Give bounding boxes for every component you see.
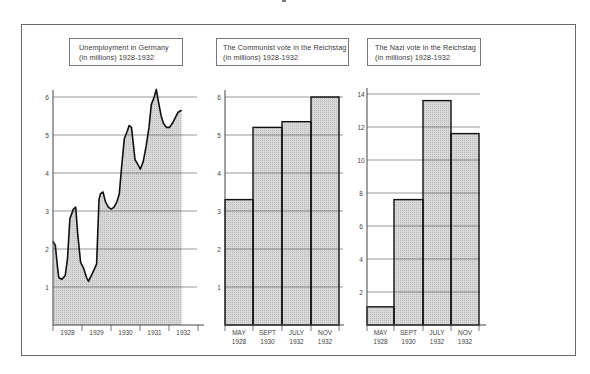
y-tick-label: 2 [45, 246, 49, 253]
x-tick-label: 1931 [147, 329, 162, 336]
y-tick-label: 3 [217, 208, 221, 215]
bar-fill [423, 101, 451, 325]
y-tick-label: 12 [357, 124, 365, 131]
bar-fill [253, 127, 282, 325]
y-tick-label: 5 [217, 132, 221, 139]
y-tick-label: 1 [45, 284, 49, 291]
y-tick-label: 2 [217, 246, 221, 253]
x-tick-label: 1928 [60, 329, 75, 336]
bar-fill [394, 200, 423, 325]
x-tick-label: 1929 [89, 329, 104, 336]
x-tick-label: MAY [374, 329, 388, 336]
y-tick-label: 4 [45, 170, 49, 177]
unemployment-chart: 12345619281929193019311932 [45, 89, 204, 336]
x-tick-label: 1932 [176, 329, 191, 336]
x-tick-label: 1932 [430, 338, 445, 345]
y-tick-label: 1 [217, 284, 221, 291]
y-tick-label: 5 [45, 132, 49, 139]
figure: Unemployment in Germany (in millions) 19… [0, 0, 590, 374]
y-tick-label: 6 [217, 94, 221, 101]
nazi-vote-chart: 2468101214MAY1928SEPT1930JULY1932NOV1932 [357, 88, 486, 345]
y-tick-label: 6 [359, 223, 363, 230]
x-tick-label: JULY [289, 329, 305, 336]
x-tick-label: SEPT [259, 329, 276, 336]
x-tick-label: MAY [232, 329, 246, 336]
x-tick-label: 1930 [401, 338, 416, 345]
x-tick-label: SEPT [400, 329, 417, 336]
y-tick-label: 2 [359, 289, 363, 296]
unemployment-area-fill [53, 89, 182, 325]
y-tick-label: 8 [359, 190, 363, 197]
y-tick-label: 10 [357, 157, 365, 164]
bar-fill [282, 122, 311, 325]
x-tick-label: 1932 [318, 338, 333, 345]
y-tick-label: 6 [45, 94, 49, 101]
y-tick-label: 3 [45, 208, 49, 215]
bar-fill [225, 200, 253, 325]
x-tick-label: 1928 [373, 338, 388, 345]
x-tick-label: 1928 [232, 338, 247, 345]
y-tick-label: 4 [217, 170, 221, 177]
x-tick-label: 1930 [260, 338, 275, 345]
y-tick-label: 4 [359, 256, 363, 263]
x-tick-label: 1932 [458, 338, 473, 345]
y-tick-label: 14 [357, 91, 365, 98]
bar-fill [367, 307, 394, 325]
bar-fill [451, 134, 479, 325]
x-tick-label: NOV [318, 329, 333, 336]
communist-vote-chart: 123456MAY1928SEPT1930JULY1932NOV1932 [217, 90, 344, 345]
x-tick-label: 1930 [118, 329, 133, 336]
x-tick-label: 1932 [289, 338, 304, 345]
x-tick-label: JULY [429, 329, 445, 336]
charts-canvas: 12345619281929193019311932 123456MAY1928… [0, 0, 590, 374]
x-tick-label: NOV [458, 329, 473, 336]
